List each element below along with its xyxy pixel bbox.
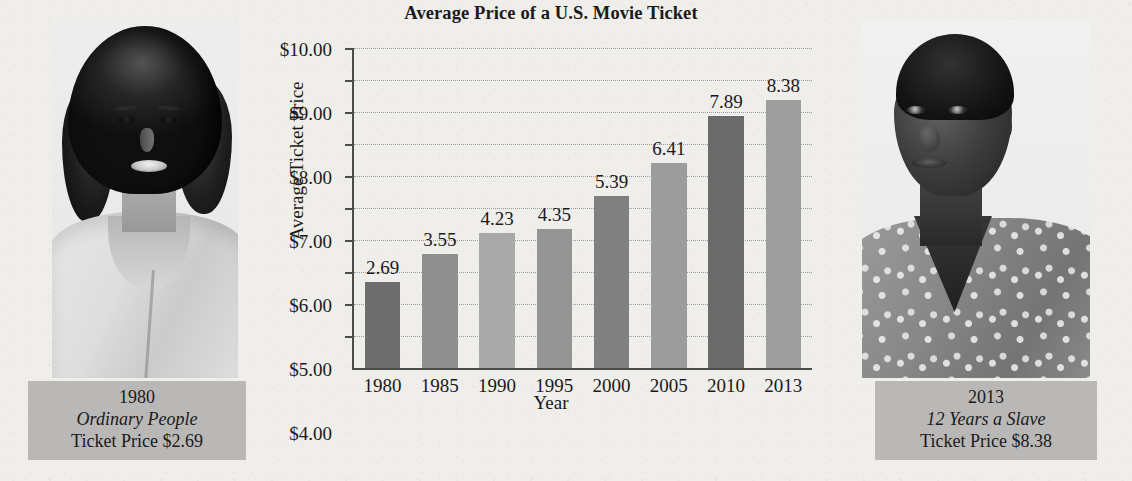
nose — [140, 128, 154, 152]
bar-chart: Average Price of a U.S. Movie Ticket Ave… — [258, 0, 844, 430]
gridline — [354, 80, 812, 81]
photo-panel-right — [862, 20, 1090, 378]
y-axis-tick: $10.00 — [345, 48, 354, 50]
bar: 2.691980 — [365, 282, 400, 368]
photo-panel-left — [52, 20, 238, 378]
portrait-photo-1980 — [52, 20, 238, 378]
bar-value-label: 3.55 — [423, 229, 456, 251]
y-axis-tick: $8.00 — [345, 112, 354, 114]
gridline — [354, 112, 812, 113]
y-axis-tick-label: $6.00 — [289, 295, 332, 317]
bar: 8.382013 — [766, 100, 801, 368]
portrait-photo-2013 — [862, 20, 1090, 378]
bar-value-label: 4.35 — [538, 204, 571, 226]
bar: 3.551985 — [422, 254, 457, 368]
y-axis-tick: $2.00 — [345, 304, 354, 306]
y-axis-tick-label: $5.00 — [289, 359, 332, 381]
y-axis-tick-label: $10.00 — [280, 39, 332, 61]
caption-right: 2013 12 Years a Slave Ticket Price $8.38 — [875, 381, 1097, 460]
x-axis-title: Year — [258, 392, 844, 414]
nose — [918, 126, 940, 152]
bar-value-label: 2.69 — [366, 257, 399, 279]
y-axis-tick: $6.00 — [345, 176, 354, 178]
y-axis-tick-label: $4.00 — [289, 423, 332, 445]
eye-left — [906, 106, 926, 114]
eye-right — [160, 116, 177, 124]
y-axis-tick: $5.00 — [345, 208, 354, 210]
bar: 6.412005 — [651, 163, 686, 368]
bar-value-label: 4.23 — [480, 208, 513, 230]
caption-right-movie-title: 12 Years a Slave — [875, 409, 1097, 431]
caption-right-year: 2013 — [875, 387, 1097, 409]
bar: 4.231990 — [479, 233, 514, 368]
caption-right-price: Ticket Price $8.38 — [875, 431, 1097, 453]
y-axis-tick-label: $8.00 — [289, 167, 332, 189]
y-axis-title: Average Ticket Price — [286, 26, 308, 296]
chart-title: Average Price of a U.S. Movie Ticket — [258, 3, 844, 24]
mouth — [912, 158, 946, 168]
bar-value-label: 6.41 — [652, 138, 685, 160]
y-axis-tick-label: $7.00 — [289, 231, 332, 253]
y-axis-tick: $1.00 — [345, 336, 354, 338]
gridline — [354, 48, 812, 49]
y-axis-tick: $4.00 — [345, 240, 354, 242]
bar: 5.392000 — [594, 196, 629, 368]
caption-left-movie-title: Ordinary People — [28, 409, 246, 431]
caption-left-year: 1980 — [28, 387, 246, 409]
mouth — [131, 160, 167, 172]
y-axis-tick: $9.00 — [345, 80, 354, 82]
caption-left-price: Ticket Price $2.69 — [28, 431, 246, 453]
y-axis-tick: $3.00 — [345, 272, 354, 274]
bar-value-label: 7.89 — [709, 91, 742, 113]
plot-area: $1.00$2.00$3.00$4.00$5.00$6.00$7.00$8.00… — [352, 48, 812, 370]
y-axis-tick: $7.00 — [345, 144, 354, 146]
bar-value-label: 5.39 — [595, 171, 628, 193]
caption-left: 1980 Ordinary People Ticket Price $2.69 — [28, 381, 246, 460]
y-axis-tick-label: $9.00 — [289, 103, 332, 125]
bar: 7.892010 — [708, 116, 743, 368]
eye-right — [948, 106, 968, 114]
bar-value-label: 8.38 — [767, 75, 800, 97]
bar: 4.351995 — [537, 229, 572, 368]
eye-left — [118, 116, 135, 124]
